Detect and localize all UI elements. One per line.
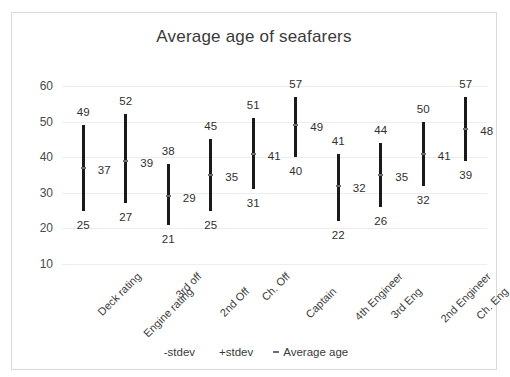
- data-label-plus-stdev: 57: [459, 78, 472, 90]
- data-label-minus-stdev: 39: [459, 169, 472, 181]
- data-label-average-age: 39: [140, 157, 153, 169]
- gridline: [62, 228, 487, 229]
- average-age-marker: [81, 167, 86, 169]
- legend-label: Average age: [283, 346, 348, 358]
- data-label-plus-stdev: 45: [204, 120, 217, 132]
- data-label-plus-stdev: 41: [332, 135, 345, 147]
- average-age-marker: [166, 195, 171, 197]
- data-label-plus-stdev: 44: [374, 124, 387, 136]
- y-axis-tick-label: 20: [40, 221, 53, 235]
- data-label-plus-stdev: 38: [162, 145, 175, 157]
- legend-label: +stdev: [219, 346, 253, 358]
- data-label-average-age: 48: [480, 125, 493, 137]
- x-axis-category-label: Deck rating: [96, 270, 144, 318]
- average-age-marker: [421, 153, 426, 155]
- legend-label: -stdev: [164, 346, 195, 358]
- data-label-average-age: 32: [353, 182, 366, 194]
- data-label-average-age: 35: [395, 171, 408, 183]
- y-axis-tick-label: 60: [40, 79, 53, 93]
- average-age-marker: [463, 128, 468, 130]
- y-axis-tick-label: 50: [40, 115, 53, 129]
- data-label-minus-stdev: 25: [204, 219, 217, 231]
- data-label-minus-stdev: 27: [119, 211, 132, 223]
- legend-item[interactable]: +stdev: [215, 346, 253, 358]
- chart-frame: Average age of seafarers 102030405060492…: [11, 12, 497, 370]
- chart-title: Average age of seafarers: [12, 27, 496, 47]
- data-label-plus-stdev: 52: [119, 95, 132, 107]
- data-label-minus-stdev: 26: [374, 215, 387, 227]
- data-label-minus-stdev: 40: [289, 165, 302, 177]
- x-axis-category-label: 3rd Eng: [388, 285, 424, 321]
- data-label-average-age: 41: [268, 150, 281, 162]
- y-axis-tick-label: 10: [40, 257, 53, 271]
- data-label-average-age: 49: [310, 121, 323, 133]
- stdev-range-bar: [294, 97, 297, 158]
- x-axis-category-label: Captain: [303, 285, 338, 320]
- average-age-marker: [378, 174, 383, 176]
- y-axis-tick-label: 40: [40, 150, 53, 164]
- data-label-plus-stdev: 51: [247, 99, 260, 111]
- legend-item[interactable]: -stdev: [160, 346, 195, 358]
- data-label-average-age: 29: [183, 192, 196, 204]
- data-label-minus-stdev: 31: [247, 197, 260, 209]
- x-axis-category-label: 2nd Off: [217, 285, 251, 319]
- stdev-range-bar: [337, 154, 340, 222]
- average-age-marker: [123, 160, 128, 162]
- legend-item[interactable]: Average age: [273, 346, 348, 358]
- y-axis-tick-label: 30: [40, 186, 53, 200]
- x-axis-labels: Deck ratingEngine rating3rd off2nd OffCh…: [62, 268, 487, 338]
- chart-legend: -stdev+stdevAverage age: [12, 346, 496, 358]
- data-label-plus-stdev: 57: [289, 78, 302, 90]
- data-label-minus-stdev: 21: [162, 233, 175, 245]
- average-age-marker: [293, 124, 298, 126]
- legend-marker-icon: [273, 351, 279, 353]
- data-label-minus-stdev: 22: [332, 229, 345, 241]
- average-age-marker: [251, 153, 256, 155]
- data-label-minus-stdev: 25: [77, 219, 90, 231]
- average-age-marker: [208, 174, 213, 176]
- data-label-plus-stdev: 49: [77, 106, 90, 118]
- gridline: [62, 264, 487, 265]
- average-age-marker: [336, 185, 341, 187]
- gridline: [62, 86, 487, 87]
- data-label-minus-stdev: 32: [417, 194, 430, 206]
- data-label-plus-stdev: 50: [417, 103, 430, 115]
- x-axis-category-label: Ch. Off: [259, 270, 292, 303]
- data-label-average-age: 41: [438, 150, 451, 162]
- data-label-average-age: 35: [225, 171, 238, 183]
- plot-area: 1020304050604925375227393821294525355131…: [62, 86, 487, 264]
- data-label-average-age: 37: [98, 164, 111, 176]
